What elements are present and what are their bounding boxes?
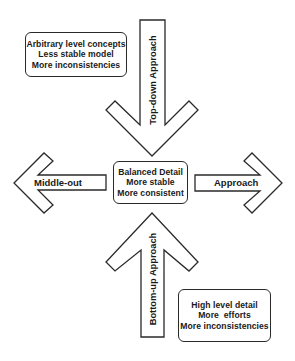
box-line: Balanced Detail: [118, 167, 183, 178]
box-line: More efforts: [198, 310, 251, 321]
diagram-canvas: Top-down Approach Bottom-up Approach Mid…: [0, 0, 295, 361]
bottom-up-arrow-label: Bottom-up Approach: [147, 227, 159, 331]
box-line: More inconsistencies: [32, 60, 120, 71]
box-line: Arbitrary level concepts: [26, 39, 125, 50]
box-line: More stable: [126, 177, 174, 188]
box-line: More consistent: [117, 188, 184, 199]
box-line: More inconsistencies: [180, 321, 268, 332]
middle-out-characteristics-box: Balanced Detail More stable More consist…: [113, 161, 188, 204]
box-line: Less stable model: [38, 49, 113, 60]
top-down-characteristics-box: Arbitrary level concepts Less stable mod…: [25, 32, 127, 77]
box-line: High level detail: [191, 300, 257, 311]
middle-out-arrow-label: Middle-out: [34, 177, 82, 189]
top-down-arrow-label: Top-down Approach: [147, 32, 159, 128]
right-approach-arrow-label: Approach: [214, 177, 258, 189]
bottom-up-characteristics-box: High level detail More efforts More inco…: [178, 289, 271, 342]
